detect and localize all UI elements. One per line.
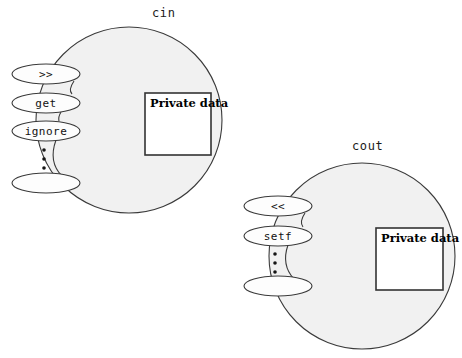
member-ellipse-cout-extraction[interactable]: << <box>244 196 312 216</box>
member-ellipse-cin-blank[interactable] <box>12 173 80 193</box>
member-ellipse-cin-ignore[interactable]: ignore <box>12 121 80 141</box>
ellipsis-dot <box>273 261 277 265</box>
member-ellipse-shape <box>12 173 80 193</box>
member-ellipse-cout-blank[interactable] <box>244 276 312 296</box>
member-ellipse-shape <box>244 276 312 296</box>
member-ellipse-cout-setf[interactable]: setf <box>244 226 312 246</box>
private-data-label-cout: Private data <box>381 231 460 245</box>
ellipsis-dot <box>42 166 46 170</box>
object-label-cin: cin <box>152 6 175 20</box>
member-ellipse-label: ignore <box>25 125 68 138</box>
ellipsis-dot <box>273 252 277 256</box>
member-ellipse-label: >> <box>39 68 53 81</box>
ellipsis-dot <box>42 157 46 161</box>
member-ellipse-label: << <box>271 200 285 213</box>
object-label-cout: cout <box>352 139 383 153</box>
ellipsis-dot <box>273 270 277 274</box>
private-data-label-cin: Private data <box>150 96 229 110</box>
member-ellipse-label: get <box>35 97 56 110</box>
member-ellipse-label: setf <box>264 230 293 243</box>
object-group-cin: cin Private data >> get ignore <box>12 6 229 213</box>
ellipsis-dot <box>42 148 46 152</box>
member-ellipse-cin-get[interactable]: get <box>12 93 80 113</box>
stream-objects-diagram: cin Private data >> get ignore <box>0 0 462 358</box>
object-group-cout: cout Private data << setf <box>244 139 460 349</box>
member-ellipse-cin-insertion[interactable]: >> <box>12 64 80 84</box>
